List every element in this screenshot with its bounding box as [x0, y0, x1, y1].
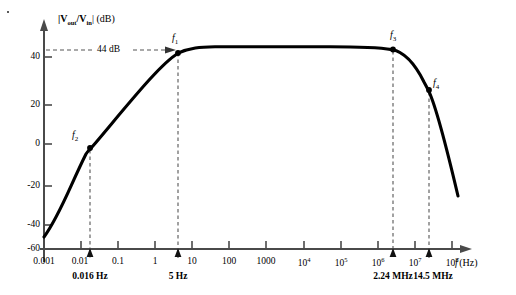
x-tick-1e7-exponent: 7	[418, 256, 421, 263]
x-tick-label-1e6: 106	[364, 257, 392, 269]
corner-frequency-points	[87, 47, 432, 151]
x-axis-ticks	[44, 241, 452, 249]
point-f2	[87, 145, 93, 151]
bode-plot-figure: |Vout/Vin| (dB) f(Hz) 40 20 0 -20 -40 -6…	[0, 0, 516, 295]
x-tick-1e6-exponent: 6	[381, 256, 384, 263]
x-tick-label-100: 100	[214, 257, 244, 267]
point-f3	[390, 47, 396, 53]
x-tick-label-1e5: 105	[327, 257, 355, 269]
x-tick-label-1e4: 104	[290, 257, 318, 269]
point-f1	[175, 50, 181, 56]
frequency-annotation-f1: 5 Hz	[153, 272, 203, 282]
y-tick-label-neg60: -60	[12, 244, 40, 254]
point-label-f2: f2	[72, 130, 78, 143]
frequency-annotation-f2: 0.016 Hz	[55, 272, 125, 282]
y-tick-label-40: 40	[18, 52, 40, 62]
point-label-f4-index: 4	[436, 83, 440, 91]
x-tick-label-10: 10	[180, 257, 204, 267]
x-tick-1e4-exponent: 4	[307, 256, 310, 263]
point-label-f1-index: 1	[175, 38, 179, 46]
frequency-annotation-f4: 14.5 MHz	[398, 272, 468, 282]
gain-response-curve	[44, 47, 458, 237]
y-tick-label-neg20: -20	[12, 181, 40, 191]
x-tick-label-1: 1	[143, 257, 167, 267]
midband-gain-label: 44 dB	[97, 45, 120, 55]
x-tick-label-1e7: 107	[401, 257, 429, 269]
x-tick-1e5-base: 10	[335, 258, 345, 268]
y-axis-ticks	[44, 57, 52, 249]
x-tick-label-1e8: 108	[438, 257, 466, 269]
point-label-f3: f3	[390, 30, 396, 43]
y-tick-label-neg40: -40	[12, 220, 40, 230]
point-label-f2-index: 2	[75, 135, 79, 143]
point-label-f3-index: 3	[393, 35, 397, 43]
x-tick-1e8-exponent: 8	[455, 256, 458, 263]
y-tick-label-20: 20	[18, 100, 40, 110]
point-label-f1: f1	[172, 33, 178, 46]
y-axis-title: |Vout/Vin| (dB)	[58, 14, 115, 27]
y-axis-title-slash: /V	[76, 13, 86, 24]
x-tick-1e8-base: 10	[446, 258, 456, 268]
x-tick-label-0p1: 0.1	[102, 257, 134, 267]
x-tick-label-1000: 1000	[249, 257, 283, 267]
bode-plot-svg	[0, 0, 516, 295]
x-tick-1e6-base: 10	[372, 258, 382, 268]
x-tick-1e5-exponent: 5	[344, 256, 347, 263]
x-axis	[40, 245, 472, 253]
x-tick-1e4-base: 10	[298, 258, 308, 268]
point-label-f4: f4	[433, 78, 439, 91]
x-tick-label-0p01: 0.01	[63, 257, 97, 267]
x-tick-1e7-base: 10	[409, 258, 419, 268]
y-tick-label-0: 0	[18, 139, 40, 149]
y-axis-title-suffix: | (dB)	[92, 13, 115, 24]
point-f4	[426, 87, 432, 93]
x-tick-label-0p001: 0.001	[24, 257, 64, 267]
corner-frequency-droplines	[90, 51, 429, 258]
